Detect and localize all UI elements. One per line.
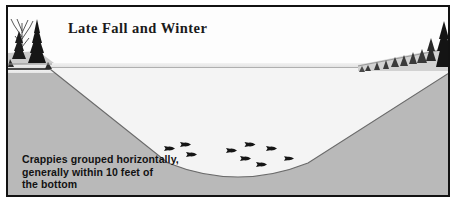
caption-line-2: generally within 10 feet of	[22, 166, 179, 179]
fish-icon	[186, 143, 197, 148]
fish-icon	[256, 153, 267, 158]
fish-icon	[180, 133, 191, 138]
caption-line-1: Crappies grouped horizontally,	[22, 153, 179, 166]
fish-icon	[266, 137, 277, 142]
figure-frame: Late Fall and Winter	[6, 5, 450, 197]
fish-icon	[240, 147, 251, 152]
left-shoreline	[8, 7, 78, 77]
fish-icon	[244, 133, 255, 138]
fish-icon	[164, 137, 175, 142]
illustration-stage: Late Fall and Winter	[0, 0, 460, 214]
fish-icon	[226, 139, 237, 144]
right-shoreline	[338, 21, 450, 79]
fish-icon	[284, 147, 295, 152]
figure-caption: Crappies grouped horizontally, generally…	[22, 153, 179, 191]
caption-line-3: the bottom	[22, 178, 179, 191]
figure-title: Late Fall and Winter	[68, 20, 207, 37]
